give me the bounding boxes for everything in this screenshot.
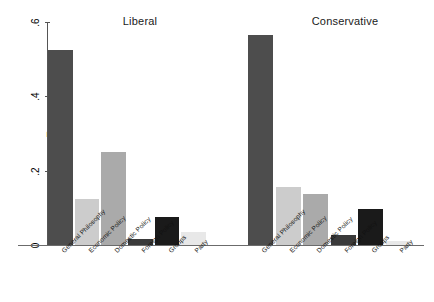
y-axis-tick: .2	[26, 171, 50, 172]
bar	[48, 50, 73, 245]
x-axis-baseline	[18, 245, 424, 246]
plot-area-conservative	[248, 22, 413, 245]
y-axis-tick-label: .4	[29, 90, 42, 104]
y-axis-tick-label: .2	[29, 164, 42, 178]
frequency-bar-chart: Frequency 0.2.4.6 Liberal Conservative G…	[0, 0, 434, 302]
plot-area-liberal	[48, 22, 208, 245]
y-axis-tick: .4	[26, 96, 50, 97]
bar	[248, 35, 273, 245]
y-axis-tick-label: .6	[29, 16, 42, 30]
y-axis-tick: .6	[26, 22, 50, 23]
